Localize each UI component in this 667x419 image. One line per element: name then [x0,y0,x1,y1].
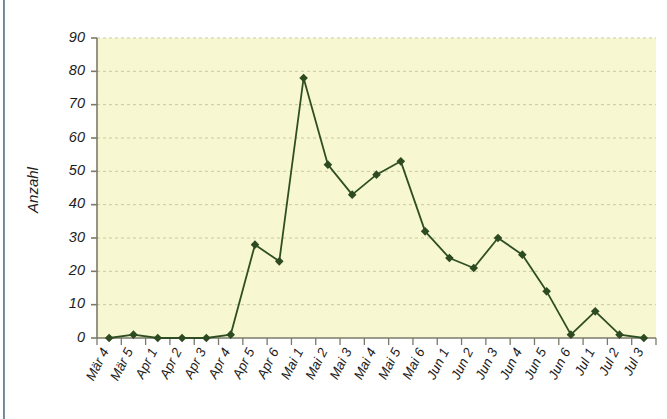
x-tick-label: Jun 1 [423,346,452,383]
line-chart: 0102030405060708090 Mär 4Mär 5Apr 1Apr 2… [0,0,667,419]
x-tick-label: Jun 6 [545,345,574,383]
y-tick-label: 50 [69,162,85,178]
x-tick-label: Mai 1 [278,346,306,382]
chart-container: 0102030405060708090 Mär 4Mär 5Apr 1Apr 2… [0,0,667,419]
x-tick-label: Jun 4 [496,346,525,383]
x-tick-label: Apr 5 [229,345,258,382]
x-tick-label: Jul 3 [620,345,647,379]
y-tick-label: 70 [69,95,85,111]
y-tick-label: 10 [69,295,85,311]
y-tick-label: 90 [69,29,85,45]
y-tick-label: 30 [69,229,85,245]
x-tick-label: Jul 2 [595,345,622,379]
x-tick-label: Mai 2 [302,345,331,382]
y-tick-label: 40 [69,195,85,211]
x-tick-label: Mai 6 [399,345,428,382]
y-axis: 0102030405060708090 [68,29,97,345]
x-tick-label: Apr 2 [156,345,185,382]
x-tick-label: Jul 1 [571,346,598,379]
x-tick-label: Jun 2 [448,345,477,383]
x-axis: Mär 4Mär 5Apr 1Apr 2Apr 3Apr 4Apr 5Apr 6… [83,338,656,383]
x-tick-label: Mai 5 [375,345,404,382]
x-tick-label: Jun 5 [520,345,549,383]
x-tick-label: Apr 6 [253,345,282,382]
y-tick-label: 80 [69,62,85,78]
x-tick-label: Mai 4 [351,346,379,382]
y-tick-label: 20 [68,262,85,278]
x-tick-label: Apr 3 [181,345,210,382]
y-axis-title: Anzahl [24,166,41,214]
x-tick-label: Mär 5 [107,345,136,383]
x-tick-label: Jun 3 [472,345,501,383]
y-tick-label: 0 [77,329,85,345]
x-tick-label: Mai 3 [327,345,356,382]
y-tick-label: 60 [69,129,85,145]
x-tick-label: Apr 4 [205,346,233,382]
plot-background [97,38,656,338]
x-tick-label: Apr 1 [132,346,160,382]
